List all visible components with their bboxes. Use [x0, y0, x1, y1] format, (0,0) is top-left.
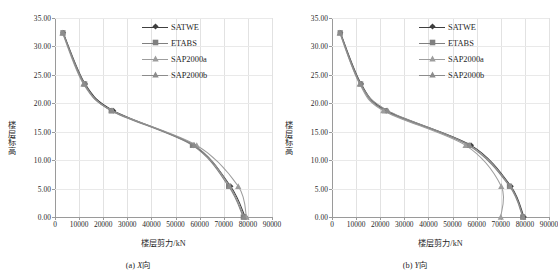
data-point-marker	[498, 214, 504, 220]
y-tick-label: 15.00	[34, 127, 51, 136]
caption-prefix-b: (b)	[403, 261, 413, 270]
legend-swatch-diamond-icon	[142, 22, 168, 32]
legend-label-satwe-b: SATWE	[448, 23, 476, 32]
legend-a: SATWE ETABS SAP2000a	[142, 19, 207, 83]
y-tick-label: 25.00	[34, 70, 51, 79]
x-tick-label: 0	[53, 220, 57, 229]
y-tick-label: 5.00	[38, 184, 51, 193]
legend-item-satwe-a[interactable]: SATWE	[142, 19, 207, 35]
x-tick-label: 30000	[395, 220, 413, 229]
legend-label-sap2000a-a: SAP2000a	[171, 55, 207, 64]
gridline-vertical	[272, 18, 273, 217]
x-tick-label: 60000	[190, 220, 208, 229]
legend-swatch-triangle-b-icon	[142, 70, 168, 80]
y-tick-label: 10.00	[34, 156, 51, 165]
chart-panel-a: 楼层标高 01000020000300004000050000600007000…	[0, 0, 276, 276]
legend-label-sap2000b-b: SAP2000b	[448, 71, 484, 80]
legend-swatch-square-icon	[419, 38, 445, 48]
legend-swatch-triangle-icon	[142, 54, 168, 64]
legend-label-etabs-a: ETABS	[171, 39, 197, 48]
y-tick-label: 20.00	[34, 99, 51, 108]
x-tick-label: 80000	[516, 220, 534, 229]
legend-item-sap2000a-b[interactable]: SAP2000a	[419, 51, 484, 67]
x-tick-label: 50000	[166, 220, 184, 229]
data-point-marker	[498, 183, 504, 189]
y-axis-title-a: 楼层标高	[4, 121, 16, 155]
y-tick-label: 15.00	[311, 127, 328, 136]
x-tick-label: 40000	[142, 220, 160, 229]
x-tick-label: 10000	[347, 220, 365, 229]
legend-item-sap2000b-b[interactable]: SAP2000b	[419, 67, 484, 83]
x-axis-title-b: 楼层剪力/kN	[332, 236, 549, 248]
x-tick-label: 20000	[371, 220, 389, 229]
legend-item-sap2000b-a[interactable]: SAP2000b	[142, 67, 207, 83]
x-axis-title-a: 楼层剪力/kN	[55, 236, 272, 248]
x-tick-label: 80000	[239, 220, 257, 229]
legend-swatch-triangle-b-icon	[419, 70, 445, 80]
y-tick-label: 5.00	[315, 184, 328, 193]
y-tick-label: 30.00	[34, 42, 51, 51]
caption-prefix-a: (a)	[126, 261, 135, 270]
x-axis-line-b	[332, 217, 549, 218]
y-tick-mark	[52, 217, 55, 218]
y-axis-title-b: 楼层标高	[281, 121, 293, 155]
x-tick-label: 70000	[492, 220, 510, 229]
x-tick-label: 10000	[70, 220, 88, 229]
legend-swatch-square-icon	[142, 38, 168, 48]
y-tick-label: 25.00	[311, 70, 328, 79]
x-tick-label: 0	[330, 220, 334, 229]
legend-label-sap2000a-b: SAP2000a	[448, 55, 484, 64]
legend-item-sap2000a-a[interactable]: SAP2000a	[142, 51, 207, 67]
caption-suffix-a: 向	[142, 261, 150, 270]
x-tick-label: 70000	[215, 220, 233, 229]
legend-swatch-diamond-icon	[419, 22, 445, 32]
gridline-vertical	[549, 18, 550, 217]
y-tick-label: 20.00	[311, 99, 328, 108]
chart-panel-b: 楼层标高 01000020000300004000050000600007000…	[277, 0, 553, 276]
x-tick-label: 60000	[467, 220, 485, 229]
x-tick-label: 30000	[118, 220, 136, 229]
y-tick-label: 0.00	[38, 213, 51, 222]
x-axis-line-a	[55, 217, 272, 218]
x-tick-label: 20000	[94, 220, 112, 229]
legend-item-etabs-a[interactable]: ETABS	[142, 35, 207, 51]
panel-caption-b: (b) Y向	[277, 258, 553, 270]
caption-suffix-b: 向	[419, 261, 427, 270]
legend-item-satwe-b[interactable]: SATWE	[419, 19, 484, 35]
legend-label-satwe-a: SATWE	[171, 23, 199, 32]
y-tick-label: 0.00	[315, 213, 328, 222]
legend-swatch-triangle-icon	[419, 54, 445, 64]
legend-b: SATWE ETABS SAP2000a	[419, 19, 484, 83]
y-tick-mark	[329, 217, 332, 218]
legend-item-etabs-b[interactable]: ETABS	[419, 35, 484, 51]
y-tick-label: 35.00	[311, 14, 328, 23]
y-tick-label: 30.00	[311, 42, 328, 51]
x-tick-label: 50000	[443, 220, 461, 229]
x-tick-label: 40000	[419, 220, 437, 229]
panel-caption-a: (a) X向	[0, 258, 276, 270]
y-tick-label: 10.00	[311, 156, 328, 165]
y-tick-label: 35.00	[34, 14, 51, 23]
x-tick-label: 90000	[540, 220, 558, 229]
legend-label-etabs-b: ETABS	[448, 39, 474, 48]
legend-label-sap2000b-a: SAP2000b	[171, 71, 207, 80]
